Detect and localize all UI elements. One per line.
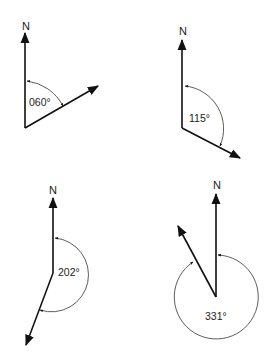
- bearings-figure: N 060° N 115° N 202° N 331°: [0, 0, 279, 362]
- heading-arrow: [178, 226, 216, 297]
- diagram-bearing-060: N 060°: [22, 20, 98, 128]
- heading-arrow: [26, 273, 53, 345]
- angle-label: 202°: [58, 266, 80, 278]
- north-label: N: [49, 184, 57, 196]
- north-label: N: [22, 20, 30, 32]
- angle-label: 115°: [189, 112, 210, 124]
- angle-label: 060°: [29, 96, 51, 108]
- heading-arrow: [182, 128, 240, 158]
- diagram-bearing-202: N 202°: [26, 184, 89, 345]
- angle-label: 331°: [205, 310, 227, 322]
- diagram-bearing-115: N 115°: [179, 25, 240, 158]
- north-label: N: [213, 179, 221, 191]
- north-label: N: [179, 25, 187, 37]
- diagram-bearing-331: N 331°: [174, 179, 258, 339]
